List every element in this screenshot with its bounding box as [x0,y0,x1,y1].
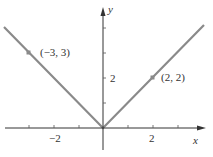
chart-canvas: −2 2 2 x y (−3, 3) (2, 2) [0,0,213,157]
x-tick-label-2: 2 [149,132,155,144]
point-label-neg3-3: (−3, 3) [40,46,70,59]
point-2-2 [151,76,155,80]
y-tick-label-2: 2 [110,72,116,84]
x-axis-label: x [192,134,198,146]
y-axis-arrow-icon [101,7,106,16]
point-neg3-3 [27,51,31,55]
y-axis-label: y [107,3,113,15]
point-label-2-2: (2, 2) [161,71,185,84]
x-axis-arrow-icon [197,126,206,131]
x-tick-label-neg2: −2 [49,132,61,144]
